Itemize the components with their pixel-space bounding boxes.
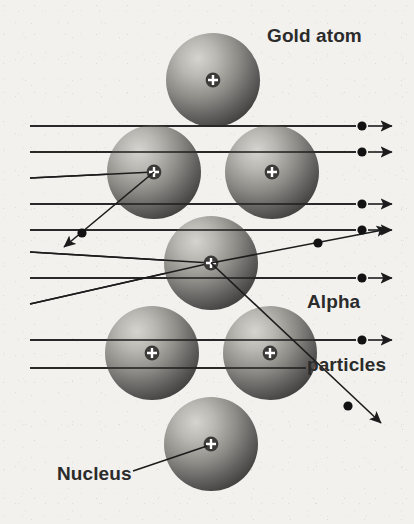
alpha-particle-dot (357, 199, 366, 208)
alpha-particles-label: Alpha particles (307, 248, 386, 418)
alpha-particles-label-line2: particles (307, 354, 386, 375)
alpha-particle-dot (357, 147, 366, 156)
exit-arrow (357, 225, 392, 234)
nucleus-upper-right (265, 165, 280, 180)
nucleus-label: Nucleus (57, 463, 132, 484)
nucleus-top (206, 73, 221, 88)
nucleus-bottom (204, 437, 219, 452)
alpha-particle-dot (357, 225, 366, 234)
alpha-particle-dot (77, 228, 86, 237)
exit-arrow (357, 199, 392, 208)
alpha-particles-label-line1: Alpha (307, 291, 386, 312)
gold-atom-label: Gold atom (267, 25, 362, 46)
nucleus-lower-right (263, 346, 278, 361)
rutherford-scattering-figure: Gold atom Alpha particles Nucleus (0, 0, 414, 524)
exit-arrow (357, 121, 392, 130)
exit-arrow (357, 147, 392, 156)
alpha-particle-dot (313, 238, 322, 247)
nucleus-lower-left (145, 346, 160, 361)
alpha-particle-dot (357, 121, 366, 130)
